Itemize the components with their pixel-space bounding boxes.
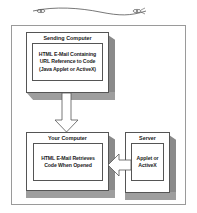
arrow-left-icon xyxy=(0,0,197,213)
